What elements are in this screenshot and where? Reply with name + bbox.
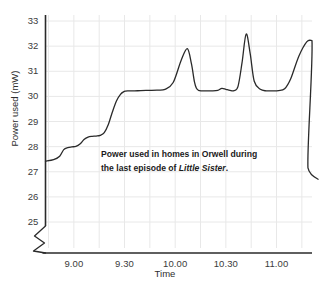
annotation-line-2-suffix: . (226, 163, 228, 173)
y-tick-label: 28 (17, 141, 39, 152)
annotation-line-1: Power used in homes in Orwell during (101, 149, 257, 159)
gridlines (46, 15, 313, 248)
y-tick-label: 30 (17, 90, 39, 101)
y-tick-label: 31 (17, 65, 39, 76)
x-tick-label: 11.00 (257, 258, 297, 269)
x-tick-label: 10.30 (206, 258, 246, 269)
y-tick-label: 27 (17, 166, 39, 177)
annotation-show-title: Little Sister (179, 163, 226, 173)
annotation-line-2-prefix: the last episode of (101, 163, 179, 173)
y-tick-label: 26 (17, 191, 39, 202)
y-tick-label: 25 (17, 216, 39, 227)
y-axis-title: Power used (mW) (9, 64, 20, 154)
y-tick-label: 29 (17, 116, 39, 127)
y-tick-label: 32 (17, 40, 39, 51)
power-usage-chart: 252627282930313233 9.009.3010.0010.3011.… (0, 0, 319, 294)
x-axis-title: Time (130, 268, 200, 279)
axis-lines (43, 15, 313, 253)
x-tick-label: 9.00 (54, 258, 94, 269)
chart-canvas (0, 0, 319, 294)
y-tick-label: 33 (17, 15, 39, 26)
chart-annotation: Power used in homes in Orwell during the… (101, 148, 281, 175)
y-axis-break-icon (34, 226, 46, 253)
